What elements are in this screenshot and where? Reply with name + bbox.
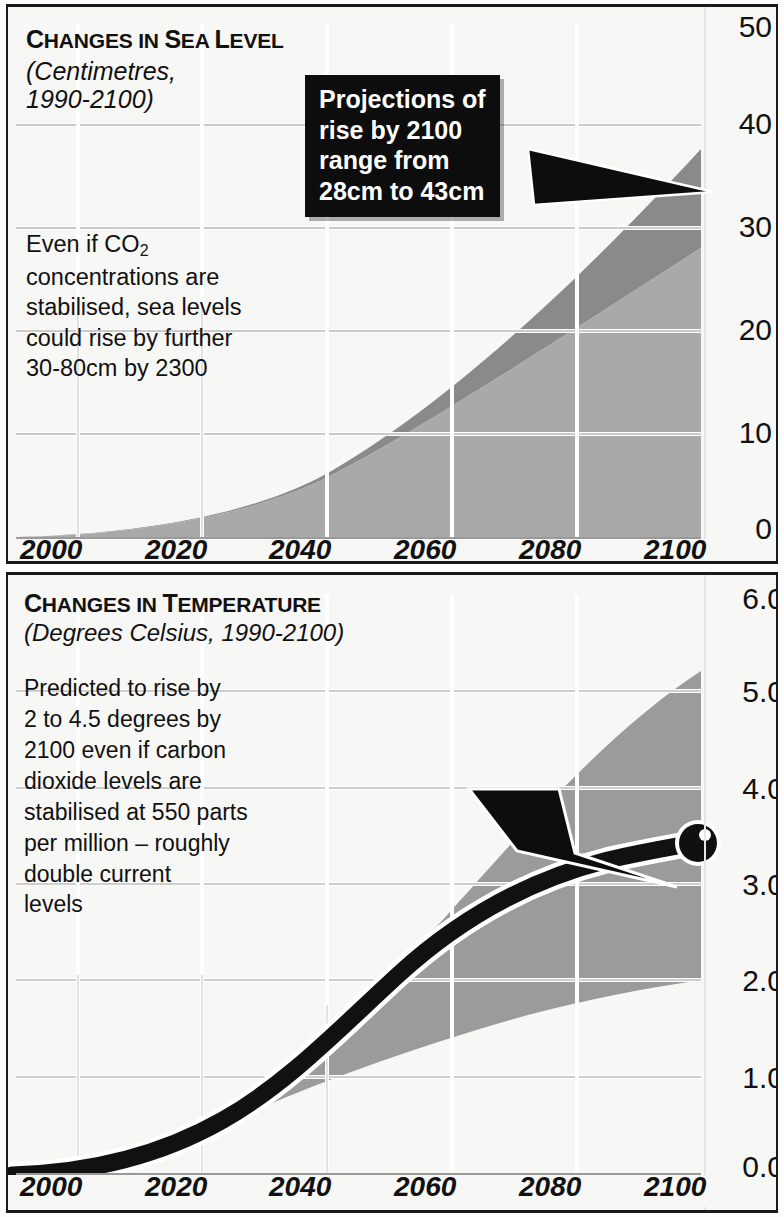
sea-level-body-line-1: Even if CO2 <box>26 229 242 262</box>
sea-level-body-line-3: stabilised, sea levels <box>26 292 242 323</box>
sea-level-callout-line-1: Projections of <box>319 84 486 115</box>
sea-level-subtitle-line2: 1990-2100) <box>26 85 284 113</box>
temperature-body-text: Predicted to rise by 2 to 4.5 degrees by… <box>24 673 248 920</box>
sea-y-tick-20: 20 <box>708 313 772 347</box>
temperature-body-line-3: 2100 even if carbon <box>24 735 248 766</box>
sea-level-body-line-4: could rise by further <box>26 323 242 354</box>
sea-level-callout-pointer <box>528 147 718 227</box>
sea-level-subtitle-line1: (Centimetres, <box>26 57 284 85</box>
temperature-body-line-1: Predicted to rise by <box>24 673 248 704</box>
temperature-body-line-4: dioxide levels are <box>24 766 248 797</box>
temperature-chart-panel: CHANGES IN TEMPERATURE (Degrees Celsius,… <box>6 572 778 1213</box>
temperature-body-line-5: stabilised at 550 parts <box>24 797 248 828</box>
sea-x-tick-2100: 2100 <box>644 534 706 564</box>
sea-x-tick-2080: 2080 <box>519 534 581 564</box>
temperature-body-line-7: double current <box>24 859 248 890</box>
temp-x-tick-2040: 2040 <box>269 1171 331 1203</box>
temp-y-tick-20: 2.0 <box>708 964 778 998</box>
sea-level-title: CHANGES IN SEA LEVEL <box>26 25 284 54</box>
temperature-body-line-6: per million – roughly <box>24 828 248 859</box>
temp-x-tick-2080: 2080 <box>519 1171 581 1203</box>
sea-level-callout-line-4: 28cm to 43cm <box>319 176 486 207</box>
temp-x-tick-2100: 2100 <box>644 1171 706 1203</box>
temperature-title-block: CHANGES IN TEMPERATURE (Degrees Celsius,… <box>24 589 344 647</box>
sea-x-tick-2000: 2000 <box>20 534 82 564</box>
temp-y-tick-00: 0.0 <box>708 1150 778 1184</box>
temp-y-tick-40: 4.0 <box>708 772 778 806</box>
sea-level-callout-line-3: range from <box>319 145 486 176</box>
temp-y-tick-60: 6.0 <box>708 582 778 616</box>
temperature-callout-pointer <box>463 787 693 897</box>
temp-y-tick-50: 5.0 <box>708 675 778 709</box>
temp-x-tick-2020: 2020 <box>145 1171 207 1203</box>
temp-x-tick-2000: 2000 <box>20 1171 82 1203</box>
sea-y-tick-0: 0 <box>708 512 772 546</box>
sea-level-title-block: CHANGES IN SEA LEVEL (Centimetres, 1990-… <box>26 25 284 113</box>
sea-y-tick-40: 40 <box>708 107 772 141</box>
sea-y-tick-50: 50 <box>708 10 772 44</box>
temperature-body-line-8: levels <box>24 889 248 920</box>
sea-x-tick-2020: 2020 <box>145 534 207 564</box>
sea-level-body-line-2: concentrations are <box>26 262 242 293</box>
sea-x-tick-2060: 2060 <box>394 534 456 564</box>
sea-level-callout-line-2: rise by 2100 <box>319 115 486 146</box>
temp-y-tick-10: 1.0 <box>708 1061 778 1095</box>
sea-level-chart-panel: CHANGES IN SEA LEVEL (Centimetres, 1990-… <box>6 4 778 564</box>
sea-x-tick-2040: 2040 <box>269 534 331 564</box>
temperature-body-line-2: 2 to 4.5 degrees by <box>24 704 248 735</box>
sea-y-tick-10: 10 <box>708 416 772 450</box>
sea-level-callout: Projections of rise by 2100 range from 2… <box>305 75 500 217</box>
temperature-subtitle: (Degrees Celsius, 1990-2100) <box>24 620 344 647</box>
temperature-title: CHANGES IN TEMPERATURE <box>24 589 344 618</box>
sea-level-body-text: Even if CO2 concentrations are stabilise… <box>26 229 242 384</box>
temp-x-tick-2060: 2060 <box>394 1171 456 1203</box>
temp-y-tick-30: 3.0 <box>708 868 778 902</box>
sea-level-body-line-5: 30-80cm by 2300 <box>26 353 242 384</box>
